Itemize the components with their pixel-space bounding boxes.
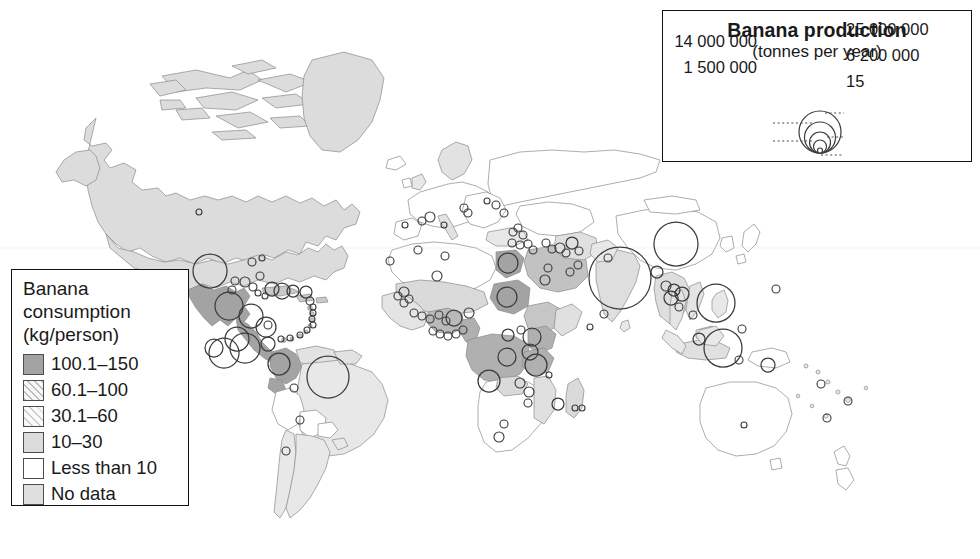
consumption-swatch — [23, 380, 44, 401]
production-legend-symbols — [663, 77, 973, 161]
consumption-class-list: 100.1–15060.1–10030.1–6010–30Less than 1… — [23, 352, 188, 508]
country-ireland — [402, 178, 412, 188]
region-russia — [488, 150, 660, 206]
symbol-15 — [818, 148, 823, 153]
consumption-legend: Banana consumption (kg/person) 100.1–150… — [11, 269, 189, 506]
consumption-class-row: 30.1–60 — [23, 404, 188, 430]
country-sri-lanka — [620, 320, 630, 332]
consumption-class-row: 10–30 — [23, 430, 188, 456]
country-uk — [412, 174, 426, 190]
country-mexico — [188, 284, 250, 326]
consumption-legend-title-line2: consumption — [23, 301, 188, 323]
region-eastern-europe — [462, 192, 506, 228]
pacific-islands — [796, 364, 868, 418]
world-banana-map: Banana production (tonnes per year) 14 0… — [0, 0, 980, 559]
country-sudan — [490, 280, 530, 314]
consumption-class-label: No data — [51, 485, 116, 504]
consumption-legend-title-line3: (kg/person) — [23, 324, 188, 346]
production-circle — [264, 321, 272, 329]
consumption-swatch — [23, 406, 44, 427]
consumption-class-row: 60.1–100 — [23, 378, 188, 404]
production-circle — [256, 317, 276, 337]
production-label-14m: 14 000 000 — [674, 33, 757, 50]
consumption-swatch — [23, 354, 44, 375]
country-egypt — [496, 250, 524, 278]
arctic-islands — [150, 60, 312, 140]
country-madagascar — [566, 378, 584, 418]
consumption-swatch — [23, 484, 44, 505]
production-circle — [817, 380, 825, 388]
consumption-class-label: 100.1–150 — [51, 355, 138, 374]
consumption-class-label: 30.1–60 — [51, 407, 118, 426]
production-label-6-2m: 6 200 000 — [846, 47, 919, 64]
consumption-class-label: 60.1–100 — [51, 381, 128, 400]
production-circle — [738, 325, 746, 333]
country-alaska — [56, 150, 100, 186]
consumption-class-label: 10–30 — [51, 433, 102, 452]
caribbean-islands — [262, 286, 328, 342]
production-legend: Banana production (tonnes per year) 14 0… — [662, 10, 972, 162]
consumption-swatch — [23, 458, 44, 479]
country-korea — [720, 236, 734, 252]
consumption-class-row: 100.1–150 — [23, 352, 188, 378]
country-iceland — [386, 156, 406, 170]
country-sumatra — [662, 330, 686, 354]
consumption-swatch — [23, 432, 44, 453]
country-tasmania — [770, 458, 782, 470]
production-circle — [772, 285, 780, 293]
country-mongolia — [644, 196, 700, 214]
country-mozambique — [534, 376, 556, 424]
country-new-zealand — [834, 446, 854, 490]
country-japan — [736, 224, 760, 264]
consumption-class-row: No data — [23, 482, 188, 508]
consumption-legend-title-line1: Banana — [23, 278, 188, 300]
production-circle — [249, 283, 257, 291]
country-philippines — [712, 290, 728, 318]
production-circle — [255, 290, 261, 296]
production-label-15: 15 — [846, 73, 864, 90]
production-circle — [587, 324, 593, 330]
consumption-class-label: Less than 10 — [51, 459, 157, 478]
production-label-25m: 25 000 000 — [846, 21, 929, 38]
country-scandinavia — [438, 142, 472, 180]
production-circle — [209, 338, 239, 368]
country-australia — [700, 382, 792, 456]
country-greenland — [302, 52, 384, 152]
region-central-asia — [516, 202, 594, 236]
consumption-class-row: Less than 10 — [23, 456, 188, 482]
production-label-1-5m: 1 500 000 — [684, 59, 757, 76]
